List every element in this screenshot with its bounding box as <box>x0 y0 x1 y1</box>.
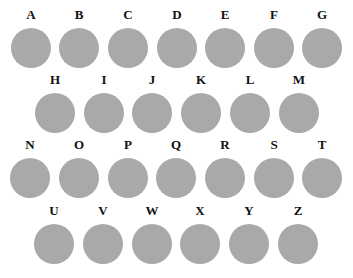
swatch-label: J <box>132 73 172 87</box>
gray-circle <box>302 28 342 68</box>
swatch-label: Z <box>278 204 318 218</box>
gray-circle <box>59 158 99 198</box>
gray-circle <box>157 28 197 68</box>
gray-circle <box>254 28 294 68</box>
gray-circle <box>205 28 245 68</box>
swatch-label: R <box>205 138 245 152</box>
swatch-g: G <box>302 8 342 70</box>
swatch-label: M <box>279 73 319 87</box>
swatch-w: W <box>132 204 172 266</box>
swatch-d: D <box>157 8 197 70</box>
gray-circle <box>181 93 221 133</box>
swatch-f: F <box>254 8 294 70</box>
swatch-label: K <box>181 73 221 87</box>
swatch-o: O <box>59 138 99 200</box>
gray-circle <box>229 224 269 264</box>
gray-circle <box>278 224 318 264</box>
swatch-k: K <box>181 73 221 135</box>
gray-circle <box>11 28 51 68</box>
swatch-label: L <box>230 73 270 87</box>
gray-circle <box>230 93 270 133</box>
gray-circle <box>35 93 75 133</box>
swatch-r: R <box>205 138 245 200</box>
swatch-j: J <box>132 73 172 135</box>
gray-circle <box>59 28 99 68</box>
swatch-label: I <box>84 73 124 87</box>
gray-circle <box>84 93 124 133</box>
swatch-label: V <box>83 204 123 218</box>
swatch-t: T <box>302 138 342 200</box>
swatch-q: Q <box>156 138 196 200</box>
gray-circle <box>180 224 220 264</box>
swatch-label: W <box>132 204 172 218</box>
swatch-label: E <box>205 8 245 22</box>
swatch-label: Y <box>229 204 269 218</box>
swatch-label: X <box>180 204 220 218</box>
swatch-m: M <box>279 73 319 135</box>
swatch-label: A <box>11 8 51 22</box>
swatch-label: D <box>157 8 197 22</box>
swatch-e: E <box>205 8 245 70</box>
swatch-label: G <box>302 8 342 22</box>
swatch-label: H <box>35 73 75 87</box>
swatch-label: F <box>254 8 294 22</box>
swatch-b: B <box>59 8 99 70</box>
gray-circle <box>205 158 245 198</box>
swatch-label: N <box>10 138 50 152</box>
swatch-v: V <box>83 204 123 266</box>
gray-circle <box>279 93 319 133</box>
swatch-n: N <box>10 138 50 200</box>
swatch-c: C <box>108 8 148 70</box>
swatch-u: U <box>34 204 74 266</box>
swatch-label: U <box>34 204 74 218</box>
swatch-label: C <box>108 8 148 22</box>
swatch-x: X <box>180 204 220 266</box>
gray-circle <box>34 224 74 264</box>
swatch-label: B <box>59 8 99 22</box>
swatch-h: H <box>35 73 75 135</box>
swatch-label: Q <box>156 138 196 152</box>
swatch-y: Y <box>229 204 269 266</box>
swatch-s: S <box>254 138 294 200</box>
gray-circle <box>302 158 342 198</box>
gray-circle <box>10 158 50 198</box>
gray-circle <box>254 158 294 198</box>
gray-circle <box>83 224 123 264</box>
swatch-a: A <box>11 8 51 70</box>
gray-circle <box>108 158 148 198</box>
gray-circle <box>108 28 148 68</box>
swatch-label: T <box>302 138 342 152</box>
gray-circle <box>132 224 172 264</box>
swatch-label: P <box>108 138 148 152</box>
swatch-i: I <box>84 73 124 135</box>
swatch-label: S <box>254 138 294 152</box>
swatch-z: Z <box>278 204 318 266</box>
gray-circle <box>156 158 196 198</box>
gray-circle <box>132 93 172 133</box>
swatch-label: O <box>59 138 99 152</box>
swatch-l: L <box>230 73 270 135</box>
swatch-p: P <box>108 138 148 200</box>
